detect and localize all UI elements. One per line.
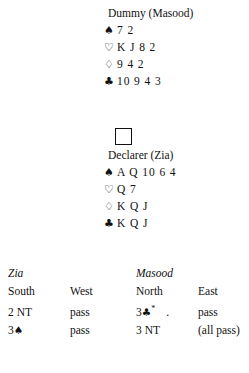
header-east: East <box>198 282 246 300</box>
bid-north-1: 3♣*. <box>136 300 198 321</box>
header-west: West <box>70 282 136 300</box>
dummy-diamond-row: ♢ 9 4 2 <box>104 56 193 73</box>
bid-south-1: 2 NT <box>8 300 70 321</box>
header-south: South <box>8 282 70 300</box>
declarer-heart-cards: Q 7 <box>117 181 137 197</box>
declarer-hand: Declarer (Zia) ♠ A Q 10 6 4 ♡ Q 7 ♢ K Q … <box>104 148 176 232</box>
bid-south-1-level: 2 NT <box>8 306 32 318</box>
east-player-cell <box>198 264 246 282</box>
bid-west-1: pass <box>70 300 136 321</box>
declarer-diamond-row: ♢ K Q J <box>104 198 176 215</box>
dummy-club-cards: 10 9 4 3 <box>117 73 162 89</box>
spade-icon: ♠ <box>104 165 117 181</box>
spade-icon: ♠ <box>14 324 23 336</box>
declarer-hand-title: Declarer (Zia) <box>108 148 176 162</box>
north-player-cell: Masood <box>136 264 198 282</box>
south-player-name: Zia <box>8 267 23 279</box>
dummy-heart-cards: K J 8 2 <box>117 39 156 55</box>
auction-table: Zia Masood South West North East 2 NT pa… <box>8 264 246 339</box>
declarer-spade-cards: A Q 10 6 4 <box>117 164 176 180</box>
bridge-table-square <box>115 128 132 145</box>
bid-north-2: 3 NT <box>136 321 198 339</box>
dummy-spade-row: ♠ 7 2 <box>104 22 193 39</box>
auction-header-row: South West North East <box>8 282 246 300</box>
bid-west-2: pass <box>70 321 136 339</box>
dummy-heart-row: ♡ K J 8 2 <box>104 39 193 56</box>
dummy-hand: Dummy (Masood) ♠ 7 2 ♡ K J 8 2 ♢ 9 4 2 ♣… <box>104 6 193 90</box>
dummy-spade-cards: 7 2 <box>117 22 134 38</box>
spade-icon: ♠ <box>104 23 117 39</box>
bid-east-2: (all pass) <box>198 321 246 339</box>
north-player-name: Masood <box>136 267 173 279</box>
dummy-club-row: ♣ 10 9 4 3 <box>104 73 193 90</box>
club-icon: ♣ <box>142 306 151 318</box>
heart-icon: ♡ <box>104 182 117 198</box>
dummy-hand-title: Dummy (Masood) <box>108 6 193 20</box>
diamond-icon: ♢ <box>104 57 117 73</box>
declarer-club-row: ♣ K Q J <box>104 215 176 232</box>
auction-row: 3♠ pass 3 NT (all pass) <box>8 321 246 339</box>
declarer-heart-row: ♡ Q 7 <box>104 181 176 198</box>
bid-south-2: 3♠ <box>8 321 70 339</box>
south-player-cell: Zia <box>8 264 70 282</box>
diamond-icon: ♢ <box>104 199 117 215</box>
west-player-cell <box>70 264 136 282</box>
bid-east-1: pass <box>198 300 246 321</box>
dummy-diamond-cards: 9 4 2 <box>117 56 145 72</box>
auction-player-row: Zia Masood <box>8 264 246 282</box>
auction-row: 2 NT pass 3♣*. pass <box>8 300 246 321</box>
declarer-spade-row: ♠ A Q 10 6 4 <box>104 164 176 181</box>
heart-icon: ♡ <box>104 40 117 56</box>
trailing-dot: . <box>166 303 169 321</box>
club-icon: ♣ <box>104 74 117 90</box>
alert-marker: * <box>151 304 155 313</box>
declarer-diamond-cards: K Q J <box>117 198 148 214</box>
bid-north-2-level: 3 NT <box>136 324 160 336</box>
declarer-club-cards: K Q J <box>117 215 148 231</box>
club-icon: ♣ <box>104 216 117 232</box>
header-north: North <box>136 282 198 300</box>
